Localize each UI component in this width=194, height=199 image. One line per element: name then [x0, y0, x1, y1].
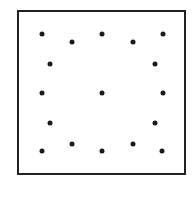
dot	[40, 149, 45, 154]
dot	[70, 142, 75, 147]
dot-pattern	[0, 0, 194, 199]
dot	[160, 149, 165, 154]
dot	[100, 32, 105, 37]
dot	[48, 62, 53, 67]
dot	[40, 32, 45, 37]
dot	[161, 91, 166, 96]
dot	[153, 62, 158, 67]
dot	[40, 91, 45, 96]
dot	[48, 121, 53, 126]
dot	[70, 40, 75, 45]
dot	[100, 91, 105, 96]
dot	[131, 40, 136, 45]
dot	[131, 142, 136, 147]
dot	[153, 121, 158, 126]
dot	[161, 32, 166, 37]
dot	[100, 149, 105, 154]
